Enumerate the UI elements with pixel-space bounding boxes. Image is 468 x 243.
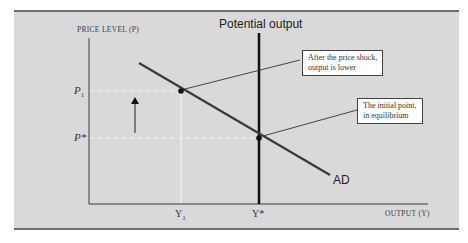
aggregate-demand-diagram: Potential output PRICE LEVEL (P) OUTPUT … — [0, 0, 468, 243]
callout-line: output is lower — [308, 63, 377, 73]
y-axis-label: PRICE LEVEL (P) — [77, 25, 139, 34]
shock-point-marker — [178, 88, 184, 94]
initial-point-marker — [256, 135, 262, 141]
ad-curve-label: AD — [333, 173, 350, 187]
p1-symbol: P — [74, 84, 81, 96]
callout-line: The initial point, — [363, 101, 417, 111]
ad-curve — [139, 63, 330, 175]
x-axis-label: OUTPUT (Y) — [385, 209, 430, 218]
arrow-up-icon — [131, 97, 139, 104]
ystar-tick-label: Y* — [252, 208, 264, 219]
p1-tick-label: P1 — [74, 84, 84, 99]
y1-subscript: 1 — [182, 214, 186, 222]
potential-output-title: Potential output — [219, 17, 302, 31]
initial-point-callout: The initial point, in equilibrium — [357, 98, 423, 124]
y1-tick-label: Y1 — [175, 208, 186, 222]
callout-line: After the price shock, — [308, 53, 377, 63]
callout-line: in equilibrium — [363, 111, 417, 121]
price-shock-leader — [185, 60, 300, 89]
pstar-tick-label: P* — [74, 131, 86, 143]
p1-subscript: 1 — [81, 91, 85, 99]
price-shock-callout: After the price shock, output is lower — [302, 50, 383, 76]
initial-point-leader — [263, 110, 357, 136]
